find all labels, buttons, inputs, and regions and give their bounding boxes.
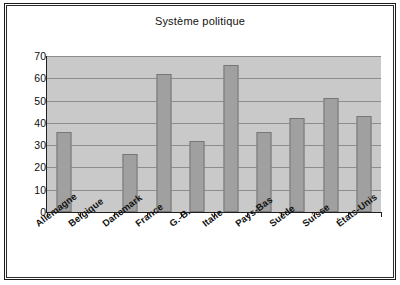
x-label: Pays-Bas [233,194,274,229]
chart-frame: Système politique 010203040506070 Allema… [4,3,396,280]
x-axis-category-labels: AllemagneBelgiqueDanemarkFranceG.-B.Ital… [5,4,400,285]
x-label: Suède [267,203,297,229]
x-label: Suisse [300,201,332,229]
x-label: G.-B. [167,206,192,229]
x-label: Italie [200,207,224,229]
x-label: États-Unis [334,191,379,229]
